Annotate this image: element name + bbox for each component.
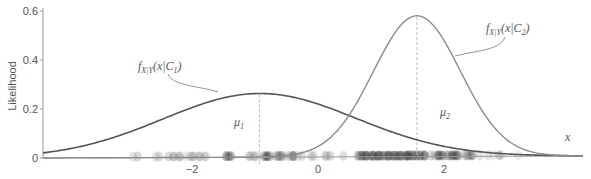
sample-point — [182, 152, 190, 162]
likelihood-chart: 00.20.40.6 Likelihood −202 x fX|Y(x|C1) … — [0, 0, 591, 179]
curve-class-2 — [43, 16, 583, 158]
x-tick-label: 0 — [315, 163, 321, 175]
y-axis-title: Likelihood — [6, 61, 18, 111]
x-axis-title: x — [564, 130, 571, 144]
sample-point — [437, 151, 445, 161]
sample-point — [308, 151, 316, 161]
sample-point — [453, 151, 461, 161]
sample-point — [355, 151, 363, 161]
sample-point — [129, 152, 137, 162]
y-tick-label: 0.2 — [23, 103, 38, 115]
mean-label-1: μ1 — [233, 115, 244, 131]
leader-line-class-1 — [168, 74, 218, 92]
mean-markers — [252, 17, 417, 164]
y-tick-label: 0 — [32, 152, 38, 164]
sample-point — [396, 151, 404, 161]
y-tick-label: 0.4 — [23, 54, 38, 66]
sample-point — [155, 152, 163, 162]
x-tick-label: 2 — [441, 163, 447, 175]
sample-point — [190, 151, 198, 161]
curve-label-class-1: fX|Y(x|C1) — [138, 59, 182, 75]
sample-point — [225, 151, 233, 161]
curve-label-class-2: fX|Y(x|C2) — [486, 21, 530, 37]
sample-point — [416, 151, 424, 161]
sample-point — [495, 150, 503, 160]
sample-point — [340, 151, 348, 161]
sample-point — [321, 151, 329, 161]
sample-point — [388, 151, 396, 161]
y-tick-label: 0.6 — [23, 5, 38, 17]
x-tick-label: −2 — [186, 163, 199, 175]
sample-point — [409, 151, 417, 161]
sample-point — [363, 151, 371, 161]
sample-point — [164, 152, 172, 162]
y-axis: 00.20.40.6 Likelihood — [6, 5, 43, 164]
leader-line-class-2 — [455, 37, 505, 56]
sample-point — [377, 151, 385, 161]
mean-label-2: μ2 — [439, 105, 450, 121]
curve-class-1 — [43, 94, 583, 156]
